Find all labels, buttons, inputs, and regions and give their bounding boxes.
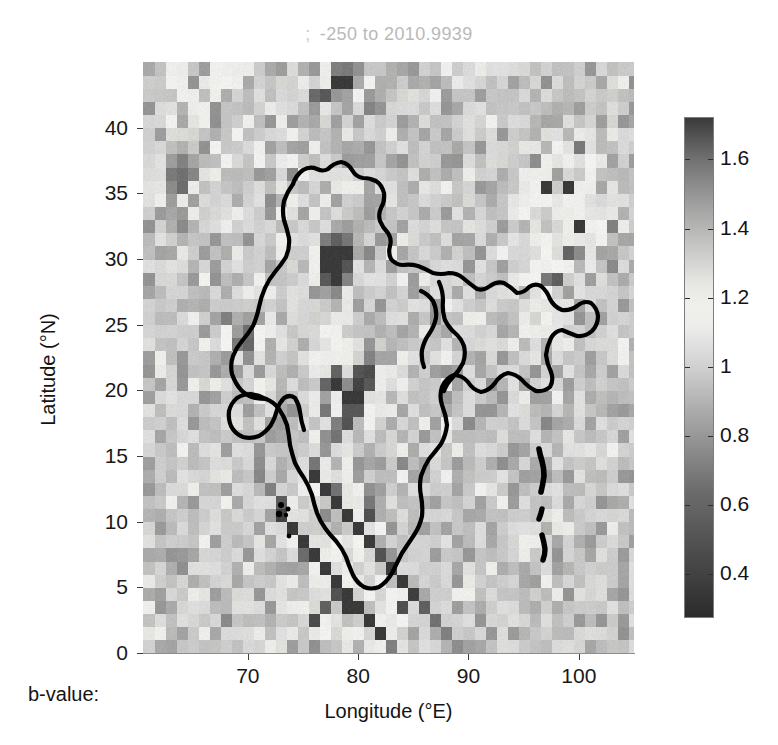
x-tick	[248, 654, 249, 660]
x-tick-label: 80	[346, 664, 369, 688]
y-tick	[137, 259, 143, 260]
y-tick	[137, 390, 143, 391]
y-tick-label: 5	[0, 575, 128, 599]
lakshadweep-dots-group	[276, 502, 292, 538]
y-tick	[137, 325, 143, 326]
colorbar	[684, 117, 714, 618]
heatmap-plot-area	[143, 62, 634, 653]
x-tick	[358, 654, 359, 660]
colorbar-tick	[708, 367, 713, 368]
india-outline-overlay	[143, 62, 634, 653]
colorbar-tick	[685, 367, 690, 368]
x-axis-line	[143, 653, 635, 654]
lakshadweep-dot-3	[276, 511, 282, 517]
y-tick-label: 15	[0, 444, 128, 468]
title-text: -250 to 2010.9939	[320, 24, 473, 44]
title-semicolon: ;	[305, 24, 310, 44]
colorbar-tick-label: 0.8	[720, 423, 749, 447]
lakshadweep-dot-2	[286, 507, 291, 512]
x-tick-label: 70	[236, 664, 259, 688]
y-tick	[137, 587, 143, 588]
colorbar-tick-label: 1.4	[720, 216, 749, 240]
colorbar-tick-label: 0.6	[720, 492, 749, 516]
y-tick-label: 20	[0, 378, 128, 402]
y-tick-label: 0	[0, 641, 128, 665]
colorbar-tick	[685, 229, 690, 230]
colorbar-tick	[685, 159, 690, 160]
colorbar-tick	[708, 159, 713, 160]
x-tick	[468, 654, 469, 660]
y-tick-label: 30	[0, 247, 128, 271]
y-tick-label: 25	[0, 313, 128, 337]
y-axis-title: Latitude (°N)	[37, 260, 60, 480]
y-tick	[137, 193, 143, 194]
colorbar-tick-label: 1.2	[720, 285, 749, 309]
colorbar-tick	[708, 298, 713, 299]
colorbar-tick	[708, 436, 713, 437]
y-tick	[137, 456, 143, 457]
y-tick	[137, 128, 143, 129]
colorbar-tick	[685, 436, 690, 437]
colorbar-tick-label: 1	[720, 354, 732, 378]
colorbar-tick-label: 1.6	[720, 146, 749, 170]
bangladesh-path	[421, 291, 436, 367]
india-border-path	[266, 162, 598, 589]
y-tick	[137, 653, 143, 654]
y-tick-label: 40	[0, 116, 128, 140]
colorbar-tick	[685, 298, 690, 299]
x-axis-title: Longitude (°E)	[143, 700, 634, 723]
colorbar-tick	[708, 574, 713, 575]
y-tick-label: 10	[0, 510, 128, 534]
colorbar-tick	[708, 229, 713, 230]
figure-root: ;-250 to 2010.9939	[0, 0, 778, 745]
lakshadweep-dot-1	[278, 502, 284, 508]
figure-title: ;-250 to 2010.9939	[0, 24, 778, 45]
x-tick-label: 90	[457, 664, 480, 688]
x-tick-label: 100	[561, 664, 596, 688]
lakshadweep-dot-5	[287, 534, 292, 539]
x-tick	[579, 654, 580, 660]
lakshadweep-dot-4	[284, 513, 288, 517]
y-tick-label: 35	[0, 181, 128, 205]
colorbar-tick	[708, 505, 713, 506]
b-value-caption: b-value:	[28, 683, 99, 706]
colorbar-tick	[685, 574, 690, 575]
colorbar-tick	[685, 505, 690, 506]
y-tick	[137, 522, 143, 523]
nicobar-islands-upper-path	[539, 509, 542, 519]
andaman-islands-path	[539, 449, 544, 492]
nicobar-islands-lower-path	[542, 535, 545, 560]
colorbar-tick-label: 0.4	[720, 561, 749, 585]
nw-boundary-path	[231, 184, 293, 399]
